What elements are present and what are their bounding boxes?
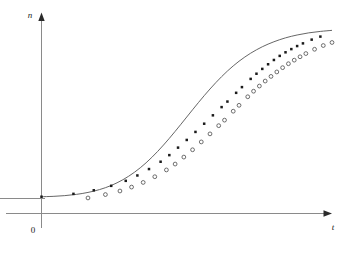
data-point-hollow-circle — [153, 175, 157, 179]
data-point-filled-square — [284, 51, 287, 54]
data-point-filled-square — [220, 106, 223, 109]
data-point-filled-square — [159, 160, 162, 163]
data-point-hollow-circle — [182, 155, 186, 159]
data-point-filled-square — [168, 154, 171, 157]
origin-label: 0 — [31, 225, 36, 235]
data-point-hollow-circle — [217, 124, 221, 128]
data-point-filled-square — [302, 42, 305, 45]
data-point-filled-square — [93, 189, 96, 192]
data-point-hollow-circle — [191, 148, 195, 152]
data-point-hollow-circle — [313, 47, 317, 51]
data-point-hollow-circle — [130, 185, 134, 189]
data-point-hollow-circle — [292, 58, 296, 62]
data-point-hollow-circle — [281, 66, 285, 70]
data-point-filled-square — [249, 78, 252, 81]
y-axis-label: n — [28, 10, 33, 20]
data-point-filled-square — [110, 185, 113, 188]
data-point-hollow-circle — [257, 84, 261, 88]
data-point-hollow-circle — [231, 109, 235, 113]
data-point-hollow-circle — [246, 95, 250, 99]
data-point-filled-square — [40, 195, 43, 198]
data-point-filled-square — [261, 68, 264, 71]
data-point-filled-square — [319, 35, 322, 38]
data-point-filled-square — [273, 59, 276, 62]
data-point-hollow-circle — [304, 52, 308, 56]
data-point-filled-square — [72, 193, 75, 196]
data-point-filled-square — [226, 100, 229, 103]
data-point-hollow-circle — [263, 79, 267, 83]
data-point-hollow-circle — [321, 44, 325, 48]
data-point-hollow-circle — [199, 140, 203, 144]
data-point-filled-square — [194, 131, 197, 134]
growth-curve-chart: n t 0 — [0, 0, 348, 253]
data-point-hollow-circle — [287, 62, 291, 66]
data-point-hollow-circle — [208, 132, 212, 136]
data-point-hollow-circle — [298, 55, 302, 59]
data-point-hollow-circle — [330, 41, 334, 45]
data-point-filled-square — [124, 180, 127, 183]
data-point-filled-square — [310, 38, 313, 41]
data-point-hollow-circle — [223, 118, 227, 122]
data-point-hollow-circle — [86, 196, 90, 200]
chart-background — [0, 0, 348, 253]
data-point-hollow-circle — [275, 70, 279, 74]
data-point-hollow-circle — [252, 89, 256, 93]
data-point-hollow-circle — [104, 193, 108, 197]
data-point-filled-square — [148, 168, 151, 171]
data-point-filled-square — [235, 92, 238, 95]
data-point-hollow-circle — [141, 181, 145, 185]
data-point-hollow-circle — [165, 168, 169, 172]
data-point-filled-square — [255, 72, 258, 75]
data-point-filled-square — [278, 55, 281, 58]
data-point-filled-square — [136, 174, 139, 177]
data-point-filled-square — [267, 63, 270, 66]
data-point-filled-square — [212, 114, 215, 117]
data-point-filled-square — [203, 122, 206, 125]
data-point-filled-square — [290, 48, 293, 51]
data-point-hollow-circle — [269, 75, 273, 79]
data-point-hollow-circle — [118, 189, 122, 193]
data-point-filled-square — [186, 139, 189, 142]
data-point-filled-square — [241, 86, 244, 89]
data-point-hollow-circle — [173, 162, 177, 166]
data-point-filled-square — [177, 146, 180, 149]
data-point-filled-square — [296, 45, 299, 48]
data-point-hollow-circle — [237, 103, 241, 107]
